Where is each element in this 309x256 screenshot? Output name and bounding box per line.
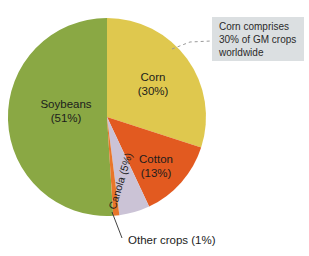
slice-label-other-crops: Other crops (1%) (128, 234, 216, 246)
slice-label-corn-name: Corn (141, 71, 166, 83)
slice-label-corn-pct: (30%) (138, 85, 169, 97)
pie-chart-figure: Corn comprises 30% of GM crops worldwide… (0, 0, 309, 256)
corn-callout-line-1: Corn comprises (219, 21, 289, 32)
slice-label-soybeans-name: Soybeans (40, 98, 91, 110)
corn-callout-line-2: 30% of GM crops (219, 34, 296, 45)
slice-label-soybeans-pct: (51%) (51, 112, 82, 124)
gm-crops-pie-chart: Corn comprises 30% of GM crops worldwide… (0, 0, 309, 256)
corn-callout-leader-line (172, 41, 211, 49)
corn-callout-line-3: worldwide (218, 47, 264, 58)
other-crops-leader-line (112, 212, 122, 238)
slice-label-cotton-pct: (13%) (141, 167, 172, 179)
slice-label-cotton-name: Cotton (139, 153, 173, 165)
